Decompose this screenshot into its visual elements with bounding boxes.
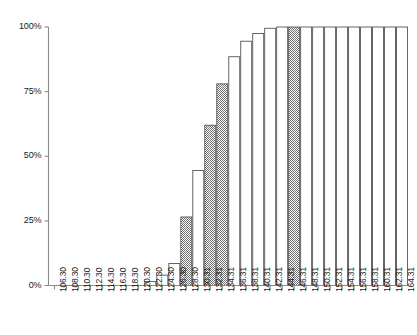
bar-hatched [289, 27, 300, 286]
bar-hatched [205, 125, 216, 285]
x-tick-label: 110.30 [82, 267, 92, 291]
y-ticks-layer [45, 27, 49, 286]
x-tick-label: 134.31 [226, 267, 236, 292]
x-tick-label: 156.31 [358, 267, 368, 292]
x-tick-label: 152.31 [334, 267, 344, 292]
x-tick-label: 146.31 [298, 267, 308, 292]
bar-plain [277, 27, 288, 286]
y-tick-label: 50% [24, 150, 42, 160]
bar-plain [265, 28, 276, 285]
bar-plain [397, 27, 408, 286]
x-tick-label: 130.31 [202, 267, 212, 292]
x-tick-label: 148.31 [310, 267, 320, 292]
y-tick-label: 0% [29, 280, 42, 290]
bar-plain [301, 27, 312, 286]
x-tick-label: 140.31 [262, 267, 272, 292]
bar-plain [361, 27, 372, 286]
x-tick-label: 122.30 [154, 267, 164, 292]
bar-plain [325, 27, 336, 286]
bars-layer [145, 27, 408, 286]
x-tick-label: 154.31 [346, 267, 356, 292]
x-tick-label: 108.30 [70, 267, 80, 292]
x-tick-label: 158.31 [370, 267, 380, 292]
y-tick-label: 100% [19, 21, 42, 31]
x-tick-label: 150.31 [322, 267, 332, 292]
x-tick-label: 132.31 [214, 267, 224, 292]
bar-plain [373, 27, 384, 286]
x-tick-label: 142.31 [274, 267, 284, 292]
bar-plain [229, 57, 240, 286]
bar-plain [313, 27, 324, 286]
bar-plain [349, 27, 360, 286]
bar-plain [385, 27, 396, 286]
x-tick-label: 164.31 [406, 267, 416, 292]
cumulative-histogram-chart: 0%25%50%75%100% 106.30108.30110.30112.30… [0, 0, 417, 335]
x-tick-label: 162.31 [394, 267, 404, 292]
x-tick-label: 160.31 [382, 267, 392, 292]
x-tick-label: 112.30 [94, 267, 104, 291]
y-tick-label: 25% [24, 215, 42, 225]
bar-plain [337, 27, 348, 286]
x-tick-label: 128.30 [190, 267, 200, 292]
bar-plain [253, 33, 264, 285]
x-tick-label: 106.30 [58, 267, 68, 292]
x-tick-label: 114.30 [106, 267, 116, 291]
y-tick-label: 75% [24, 86, 42, 96]
x-tick-label: 144.31 [286, 267, 296, 292]
x-tick-label: 136.31 [238, 267, 248, 292]
bar-plain [241, 41, 252, 285]
bar-hatched [217, 84, 228, 286]
x-tick-label: 118.30 [130, 267, 140, 291]
x-tick-label: 138.31 [250, 267, 260, 292]
x-tick-label: 126.30 [178, 267, 188, 292]
x-tick-label: 124.30 [166, 267, 176, 292]
x-tick-label: 120.30 [142, 267, 152, 292]
x-tick-label: 116.30 [118, 267, 128, 291]
